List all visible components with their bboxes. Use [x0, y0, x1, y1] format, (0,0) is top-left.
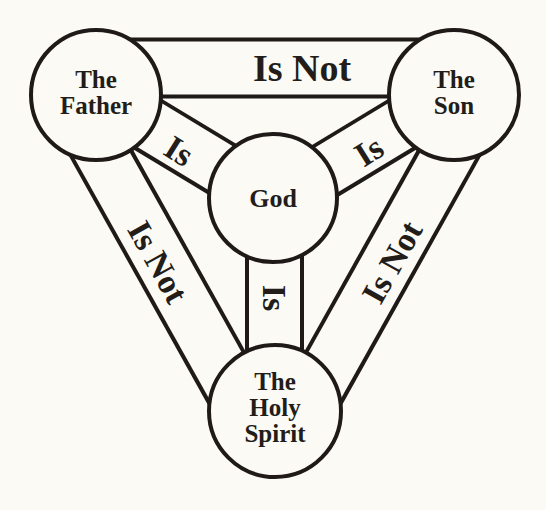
node-spirit-line1: The	[254, 368, 296, 395]
node-son-line2: Son	[434, 92, 474, 119]
node-father: The Father	[31, 30, 161, 160]
node-father-line1: The	[75, 66, 117, 93]
label-spirit-god: Is	[256, 285, 293, 311]
node-god-label: God	[249, 184, 297, 213]
node-father-line2: Father	[60, 92, 132, 119]
node-spirit-line3: Spirit	[244, 420, 306, 447]
node-holy-spirit: The Holy Spirit	[209, 345, 341, 477]
node-god: God	[209, 134, 337, 262]
node-son-line1: The	[433, 66, 475, 93]
node-son: The Son	[389, 30, 519, 160]
label-father-son: Is Not	[253, 47, 352, 89]
node-spirit-line2: Holy	[249, 394, 301, 421]
trinity-diagram: Is Not Is Not Is Not Is Is Is The Father…	[0, 0, 546, 510]
